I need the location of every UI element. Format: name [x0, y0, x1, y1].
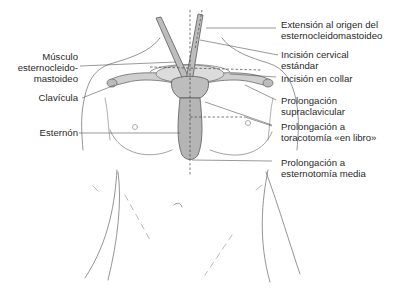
label-prolongacion-esternotomia: Prolongación a esternotomía media	[281, 157, 366, 179]
label-musculo-esternocleidomastoideo: Músculo esternocleido- mastoideo	[18, 51, 78, 85]
nipple-left	[133, 125, 138, 130]
label-extension-origen: Extensión al origen del esternocleidomas…	[281, 19, 382, 41]
nipple-right	[246, 121, 251, 126]
label-esternon: Esternón	[40, 127, 78, 138]
anatomy-illustration	[0, 0, 396, 291]
label-prolongacion-supraclavicular: Prolongación supraclavicular	[281, 95, 345, 117]
label-incision-collar: Incisión en collar	[281, 73, 352, 84]
label-prolongacion-toracotomia: Prolongación a toracotomía «en libro»	[281, 121, 376, 143]
label-clavicula: Clavícula	[39, 92, 78, 103]
label-incision-cervical: Incisión cervical estándar	[281, 49, 349, 71]
navel	[174, 203, 182, 207]
